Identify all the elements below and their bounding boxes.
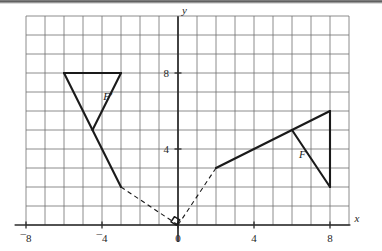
axis-layer <box>15 16 351 242</box>
y-axis-tick-label: 4 <box>164 143 170 155</box>
x-axis-name-label: x <box>353 212 359 224</box>
connector-layer <box>121 168 216 225</box>
y-axis-tick-label: 8 <box>164 67 170 79</box>
coordinate-figure: xy¯8¯404848FF′ <box>0 0 382 251</box>
shape-label-F: F <box>298 148 306 160</box>
x-axis-tick-label: 0 <box>175 232 181 244</box>
x-axis-tick-label: ¯4 <box>96 232 109 244</box>
x-axis-tick-label: ¯8 <box>20 232 33 244</box>
x-axis-tick-label: 8 <box>327 232 333 244</box>
y-axis-name-label: y <box>181 4 187 16</box>
coordinate-plot-svg: xy¯8¯404848FF′ <box>0 0 382 251</box>
grid-layer <box>26 16 349 225</box>
x-axis-tick-label: 4 <box>251 232 257 244</box>
shape-label-F-prime: F′ <box>102 90 113 102</box>
